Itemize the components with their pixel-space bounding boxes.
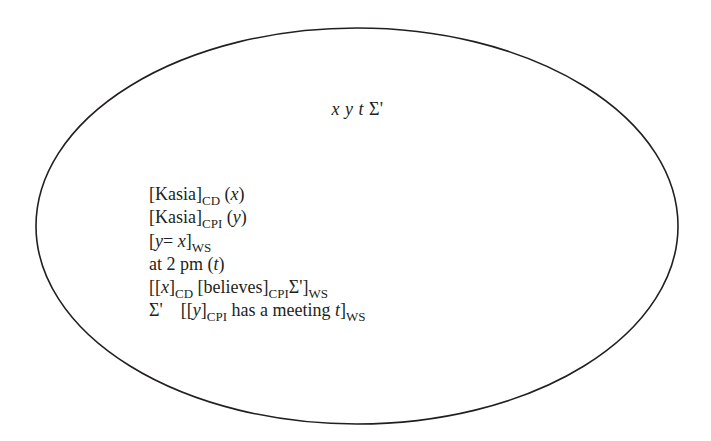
drs-universe-referents: x y t Σ'	[0, 99, 711, 120]
bracket-close: ]	[186, 231, 192, 251]
bracket-close: ]	[303, 277, 309, 297]
paren-close: )	[219, 254, 225, 274]
condition-name: Kasia	[155, 207, 196, 227]
predicate-believes: [believes]	[193, 277, 268, 297]
sigma-prime: Σ'	[149, 300, 163, 320]
variable-y: y	[155, 231, 163, 251]
bracket-open: [[	[149, 277, 161, 297]
referent-x: x	[331, 99, 340, 119]
variable-x: x	[178, 231, 186, 251]
condition-x-believes-sigma: [[x]CD [believes]CPIΣ']WS	[149, 276, 365, 299]
referent-sigma-prime: Σ'	[369, 99, 384, 119]
variable-x: x	[161, 277, 169, 297]
variable-y: y	[193, 300, 201, 320]
predicate-has-a-meeting: has a meeting	[227, 300, 335, 320]
referent-t: t	[358, 99, 364, 119]
subscript-cpi: CPI	[269, 286, 289, 301]
condition-sigma-y-has-meeting: Σ'[[y]CPI has a meeting t]WS	[149, 299, 365, 322]
bracket-close: ]	[201, 300, 207, 320]
condition-kasia-cd-x: [Kasia]CD (x)	[149, 183, 365, 206]
sigma-prime: Σ'	[289, 277, 303, 297]
paren-open: (	[222, 207, 233, 227]
subscript-cpi: CPI	[207, 309, 227, 324]
condition-at-2pm-t: at 2 pm (t)	[149, 253, 365, 276]
variable-y: y	[233, 207, 241, 227]
variable-x: x	[231, 184, 239, 204]
subscript-ws: WS	[192, 240, 212, 255]
subscript-cd: CD	[202, 193, 220, 208]
subscript-ws: WS	[309, 286, 329, 301]
subscript-cpi: CPI	[202, 216, 222, 231]
paren-open: (	[220, 184, 231, 204]
referent-y: y	[345, 99, 354, 119]
condition-kasia-cpi-y: [Kasia]CPI (y)	[149, 206, 365, 229]
condition-name: Kasia	[155, 184, 196, 204]
bracket-open: [[	[181, 300, 193, 320]
condition-y-equals-x: [y= x]WS	[149, 230, 365, 253]
drs-conditions: [Kasia]CD (x) [Kasia]CPI (y) [y= x]WS at…	[149, 183, 365, 323]
paren-close: )	[241, 207, 247, 227]
condition-text: at 2 pm (	[149, 254, 214, 274]
paren-close: )	[239, 184, 245, 204]
subscript-ws: WS	[346, 309, 366, 324]
subscript-cd: CD	[175, 286, 193, 301]
equals-sign: =	[163, 231, 178, 251]
